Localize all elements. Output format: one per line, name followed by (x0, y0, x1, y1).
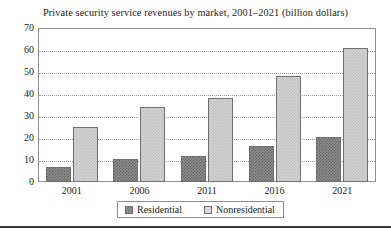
bar-nonresidential-2016 (276, 76, 301, 182)
residential-swatch-icon (125, 206, 133, 214)
y-tick-label: 60 (0, 45, 34, 55)
legend-entry-residential: Residential (125, 204, 182, 215)
bar-group (106, 28, 174, 182)
bar-residential-2011 (181, 156, 206, 182)
bar-group (241, 28, 309, 182)
y-tick-label: 30 (0, 111, 34, 121)
bar-group (38, 28, 106, 182)
nonresidential-swatch-icon (204, 206, 212, 214)
bar-residential-2006 (113, 159, 138, 182)
chart-legend: ResidentialNonresidential (117, 201, 284, 218)
y-tick-label: 70 (0, 23, 34, 33)
bottom-divider (0, 226, 391, 228)
bar-group (308, 28, 376, 182)
bar-residential-2021 (316, 137, 341, 182)
bar-residential-2016 (249, 146, 274, 182)
y-tick-label: 0 (0, 177, 34, 187)
chart-figure: Private security service revenues by mar… (0, 0, 391, 234)
legend-entry-nonresidential: Nonresidential (204, 204, 275, 215)
bar-residential-2001 (46, 167, 71, 182)
bar-nonresidential-2021 (343, 48, 368, 182)
bars-layer (38, 28, 376, 182)
x-tick-label: 2001 (38, 185, 106, 197)
bar-nonresidential-2006 (140, 107, 165, 182)
bar-group (173, 28, 241, 182)
x-tick-label: 2021 (308, 185, 376, 197)
y-tick-label: 10 (0, 155, 34, 165)
y-tick-label: 40 (0, 89, 34, 99)
chart-title: Private security service revenues by mar… (0, 7, 391, 18)
y-axis: 706050403020100 (0, 28, 34, 182)
bar-nonresidential-2011 (208, 98, 233, 182)
x-tick-label: 2011 (173, 185, 241, 197)
bar-nonresidential-2001 (73, 127, 98, 182)
x-axis: 20012006201120162021 (38, 185, 376, 199)
legend-label: Residential (137, 204, 182, 215)
legend-label: Nonresidential (216, 204, 275, 215)
x-tick-label: 2016 (241, 185, 309, 197)
y-tick-label: 50 (0, 67, 34, 77)
x-tick-label: 2006 (106, 185, 174, 197)
y-tick-label: 20 (0, 133, 34, 143)
